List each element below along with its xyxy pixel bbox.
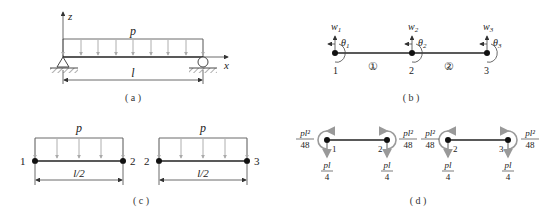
element-2-nodal-loads: 2 3 pl² 48 pl² 48 pl 4 pl 4 [421,128,539,182]
node-2: w2 θ2 2 [405,21,427,76]
element-1-nodal-loads: 1 2 pl² 48 pl² 48 pl 4 pl 4 [296,128,417,182]
panel-d-equivalent-nodal-loads: 1 2 pl² 48 pl² 48 pl 4 pl 4 2 [296,128,539,207]
svg-text:θ3: θ3 [493,37,502,50]
svg-text:2: 2 [409,65,414,76]
svg-text:θ1: θ1 [341,37,349,50]
element-1-label: ① [368,60,378,72]
svg-text:2: 2 [378,144,383,154]
svg-text:pl²: pl² [524,128,535,138]
svg-text:pl²: pl² [424,128,435,138]
svg-text:pl²: pl² [402,128,413,138]
distributed-load-arrows [63,40,203,55]
svg-text:48: 48 [526,140,536,150]
svg-text:w2: w2 [408,21,419,34]
svg-text:4: 4 [446,172,451,182]
svg-text:pl: pl [443,160,452,170]
svg-text:4: 4 [506,172,511,182]
svg-text:2: 2 [144,155,150,167]
pin-support [50,57,78,73]
panel-a-simply-supported-beam: z p x [50,10,229,104]
svg-text:l/2: l/2 [197,167,209,179]
svg-text:pl²: pl² [299,128,310,138]
caption-c: ( c ) [133,195,149,207]
svg-text:4: 4 [325,172,330,182]
node-3: w3 θ3 3 [480,21,502,76]
z-axis-label: z [67,10,73,22]
svg-text:3: 3 [499,144,504,154]
element-2-loaded: p 2 3 l/2 [144,121,260,185]
element-1-loaded: p 1 2 l/2 [20,121,136,185]
caption-b: ( b ) [403,92,420,104]
fem-beam-diagram: z p x [0,0,554,216]
x-axis-label: x [223,59,229,71]
svg-text:48: 48 [426,140,436,150]
element-2-label: ② [444,60,454,72]
svg-text:3: 3 [254,155,260,167]
svg-text:4: 4 [385,172,390,182]
svg-text:48: 48 [301,140,311,150]
svg-text:pl: pl [503,160,512,170]
svg-text:l/2: l/2 [73,167,85,179]
svg-text:48: 48 [404,140,414,150]
svg-text:p: p [199,121,206,135]
length-label-l: l [131,66,135,80]
caption-a: ( a ) [125,92,141,104]
svg-text:1: 1 [333,65,338,76]
svg-text:θ2: θ2 [418,37,427,50]
svg-text:2: 2 [130,155,136,167]
svg-text:2: 2 [453,144,458,154]
svg-text:pl: pl [382,160,391,170]
svg-text:3: 3 [484,65,489,76]
node-1: w1 θ1 1 [328,21,349,76]
svg-text:1: 1 [20,155,26,167]
svg-text:pl: pl [322,160,331,170]
caption-d: ( d ) [410,195,427,207]
svg-text:1: 1 [332,144,337,154]
svg-text:w1: w1 [331,21,341,34]
panel-b-fe-discretization: w1 θ1 1 w2 θ2 2 w3 θ3 3 ① ② ( b ) [328,21,502,104]
svg-text:p: p [75,121,82,135]
svg-text:w3: w3 [483,21,494,34]
load-label-p: p [129,24,136,38]
panel-c-element-loads: p 1 2 l/2 p 2 3 l/2 ( c ) [20,121,260,207]
